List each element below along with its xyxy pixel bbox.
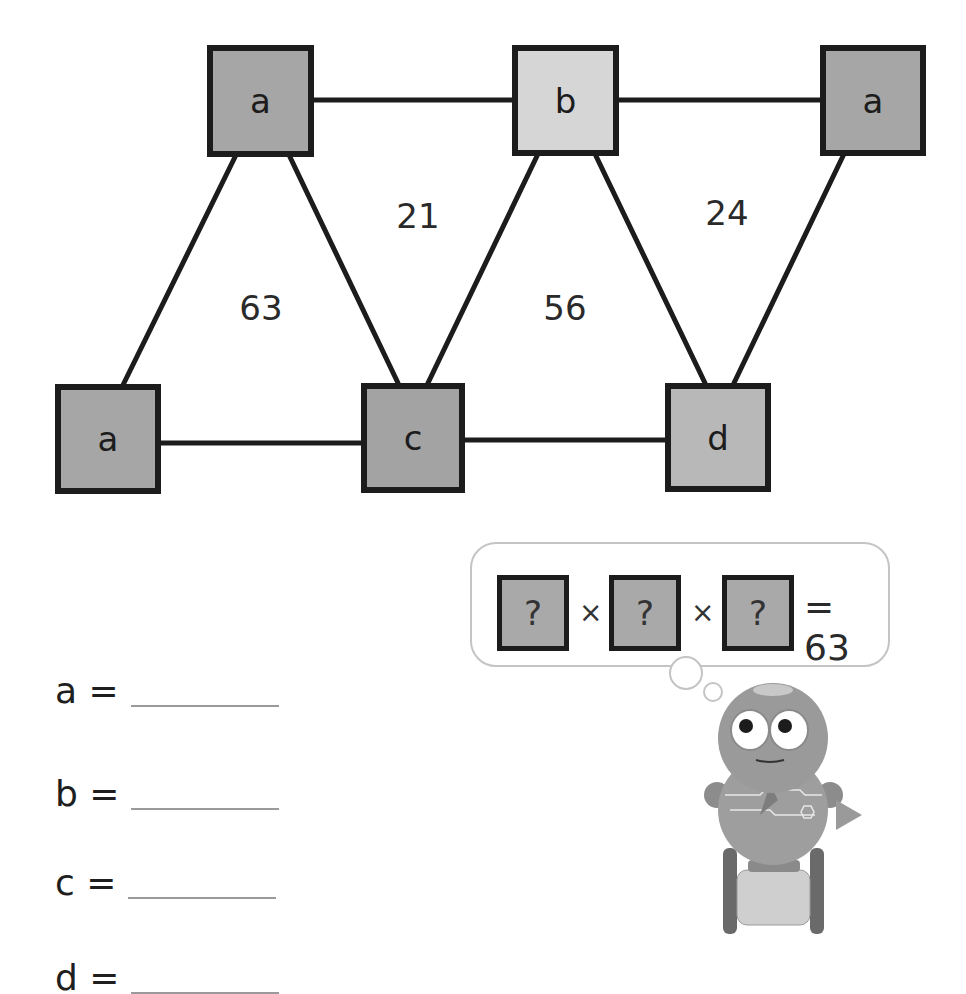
node-label: b	[555, 81, 577, 121]
answer-label: a =	[55, 670, 119, 711]
node-bottom-right: d	[665, 383, 771, 492]
node-label: a	[863, 81, 884, 121]
thought-circle-small	[703, 682, 723, 702]
answer-c: c =	[55, 862, 276, 903]
node-label: d	[707, 418, 729, 458]
answer-blank-c[interactable]	[128, 897, 276, 899]
triangle-product-4: 24	[705, 193, 748, 233]
answer-a: a =	[55, 670, 279, 711]
answer-d: d =	[55, 957, 279, 994]
node-top-left: a	[207, 45, 314, 157]
robot-illustration	[704, 683, 862, 934]
answer-label: d =	[55, 957, 119, 994]
answer-label: b =	[55, 773, 119, 814]
node-bottom-left: a	[55, 384, 161, 494]
unknown-box-3: ?	[722, 575, 794, 651]
triangle-product-2: 21	[396, 196, 439, 236]
answer-label: c =	[55, 862, 116, 903]
unknown-box-2: ?	[609, 575, 681, 651]
answer-blank-b[interactable]	[131, 808, 279, 810]
thought-circle-large	[669, 656, 703, 690]
thought-bubble: ? × ? × ? = 63	[470, 542, 890, 667]
equation-result: = 63	[804, 586, 888, 668]
triangle-product-3: 56	[543, 288, 586, 328]
node-bottom-middle: c	[361, 383, 465, 493]
multiply-sign-2: ×	[691, 596, 714, 629]
multiply-sign-1: ×	[579, 596, 602, 629]
unknown-box-1: ?	[497, 575, 569, 651]
answer-blank-a[interactable]	[131, 705, 279, 707]
answer-b: b =	[55, 773, 279, 814]
node-top-right: a	[820, 45, 926, 156]
node-top-middle: b	[512, 45, 619, 156]
triangle-product-1: 63	[239, 288, 282, 328]
node-label: a	[98, 419, 119, 459]
node-label: c	[404, 418, 423, 458]
node-label: a	[250, 81, 271, 121]
